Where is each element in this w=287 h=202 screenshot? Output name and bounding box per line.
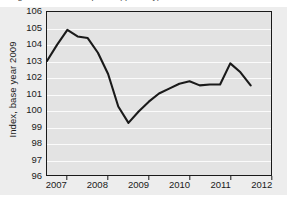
figure-footer-strip <box>0 195 287 202</box>
x-tick-label: 2009 <box>128 180 149 190</box>
y-tick-label: 101 <box>18 89 42 99</box>
y-tick-label: 106 <box>18 6 42 16</box>
y-tick-label: 96 <box>18 171 42 181</box>
x-tick-label: 2010 <box>169 180 190 190</box>
y-tick-label: 99 <box>18 122 42 132</box>
y-tick-label: 100 <box>18 105 42 115</box>
y-tick-label: 102 <box>18 72 42 82</box>
chart-figure: Figure: Index development (quarterly) In… <box>0 0 287 202</box>
y-axis-tick-labels: 96979899100101102103104105106 <box>18 8 42 176</box>
index-series-line <box>47 30 251 123</box>
y-axis-label-text: Index, base year 2009 <box>7 41 18 137</box>
y-tick-label: 105 <box>18 23 42 33</box>
y-tick-label: 97 <box>18 155 42 165</box>
cut-off-title-text: Figure: Index development (quarterly) <box>10 0 160 1</box>
x-tick-label: 2008 <box>87 180 108 190</box>
x-tick-label: 2012 <box>251 180 272 190</box>
cut-off-title: Figure: Index development (quarterly) <box>0 0 287 7</box>
y-tick-label: 98 <box>18 138 42 148</box>
y-tick-label: 103 <box>18 56 42 66</box>
x-tick-label: 2011 <box>210 180 230 190</box>
x-axis-tick-labels: 200720082009201020112012 <box>46 180 272 194</box>
series-line-chart <box>47 12 271 175</box>
x-tick-label: 2007 <box>46 180 67 190</box>
y-tick-label: 104 <box>18 39 42 49</box>
plot-area <box>46 11 272 176</box>
